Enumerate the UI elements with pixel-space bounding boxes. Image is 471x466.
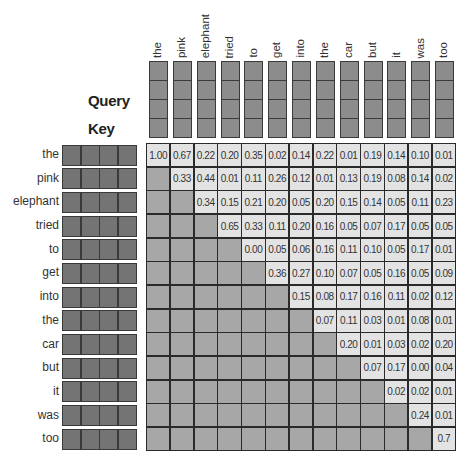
query-vector <box>221 61 240 138</box>
query-token-text: too <box>438 42 450 58</box>
attention-score-cell: 0.01 <box>433 144 455 166</box>
query-vector-cell <box>198 119 215 137</box>
masked-cell <box>195 381 217 403</box>
query-vector-cell <box>365 81 382 99</box>
key-vector-cell <box>63 335 80 354</box>
query-vector-cell <box>293 100 310 118</box>
key-vector-cell <box>100 288 117 307</box>
masked-cell <box>195 357 217 379</box>
masked-cell <box>409 428 431 450</box>
masked-cell <box>242 357 264 379</box>
masked-cell <box>266 428 288 450</box>
query-token-text: car <box>343 42 355 58</box>
attention-score-cell: 0.08 <box>409 310 431 332</box>
attention-score-cell: 0.05 <box>290 191 312 213</box>
query-vector-cell <box>245 62 262 80</box>
attention-score-cell: 0.20 <box>337 333 359 355</box>
masked-cell <box>337 381 359 403</box>
attention-score-cell: 0.01 <box>314 168 336 190</box>
key-token-label: elephant <box>13 194 59 208</box>
attention-score-cell: 0.17 <box>409 239 431 261</box>
attention-score-cell: 0.05 <box>433 215 455 237</box>
masked-cell <box>147 239 169 261</box>
query-token-label: tried <box>218 0 242 58</box>
key-vector-cell <box>63 240 80 259</box>
query-vector-cell <box>269 100 286 118</box>
query-vector-cell <box>341 81 358 99</box>
attention-score-cell: 0.07 <box>361 357 383 379</box>
key-vector-cell <box>82 264 99 283</box>
query-token-label: into <box>289 0 313 58</box>
query-vector-cell <box>436 119 453 137</box>
attention-score-cell: 0.20 <box>314 191 336 213</box>
attention-score-cell: 0.16 <box>361 286 383 308</box>
query-vector-cell <box>269 119 286 137</box>
query-vector <box>435 61 454 138</box>
key-vector <box>62 358 137 379</box>
masked-cell <box>195 239 217 261</box>
key-token-label: to <box>49 242 59 256</box>
masked-cell <box>195 286 217 308</box>
attention-score-cell: 0.02 <box>433 168 455 190</box>
attention-score-cell: 0.02 <box>409 286 431 308</box>
key-vector-cell <box>82 169 99 188</box>
masked-cell <box>147 168 169 190</box>
query-token-text: was <box>415 38 427 58</box>
attention-score-cell: 0.02 <box>266 144 288 166</box>
attention-score-cell: 0.22 <box>195 144 217 166</box>
key-vector-cell <box>100 146 117 165</box>
key-vector-cell <box>119 311 136 330</box>
attention-score-cell: 0.33 <box>242 215 264 237</box>
attention-score-cell: 0.05 <box>337 215 359 237</box>
masked-cell <box>171 310 193 332</box>
key-vector <box>62 381 137 402</box>
masked-cell <box>218 310 240 332</box>
attention-score-cell: 0.16 <box>385 262 407 284</box>
key-vector-cell <box>63 217 80 236</box>
attention-score-cell: 0.05 <box>266 239 288 261</box>
masked-cell <box>314 357 336 379</box>
query-token-label: to <box>241 0 265 58</box>
key-vector <box>62 192 137 213</box>
key-vector-cell <box>82 193 99 212</box>
query-token-label: was <box>408 0 432 58</box>
masked-cell <box>171 262 193 284</box>
query-token-text: tried <box>224 36 236 58</box>
query-token-label: pink <box>170 0 194 58</box>
key-vector-cell <box>119 288 136 307</box>
masked-cell <box>147 357 169 379</box>
key-vector-cell <box>63 264 80 283</box>
key-vector <box>62 405 137 426</box>
attention-score-cell: 0.00 <box>242 239 264 261</box>
key-vector-cell <box>100 335 117 354</box>
attention-score-cell: 0.11 <box>242 168 264 190</box>
query-vector-cell <box>412 119 429 137</box>
key-vector-cell <box>119 264 136 283</box>
key-vector-cell <box>100 217 117 236</box>
masked-cell <box>171 191 193 213</box>
attention-score-cell: 0.05 <box>385 191 407 213</box>
attention-score-cell: 0.19 <box>361 144 383 166</box>
key-token-label: pink <box>37 171 59 185</box>
masked-cell <box>147 428 169 450</box>
attention-score-cell: 0.14 <box>409 168 431 190</box>
query-token-text: to <box>248 48 260 58</box>
masked-cell <box>195 262 217 284</box>
key-vector-cell <box>119 406 136 425</box>
attention-score-cell: 0.14 <box>361 191 383 213</box>
query-token-text: the <box>152 42 164 58</box>
attention-score-cell: 0.05 <box>361 262 383 284</box>
query-vector-cell <box>388 119 405 137</box>
query-vector-cell <box>436 62 453 80</box>
attention-score-cell: 0.17 <box>385 357 407 379</box>
key-vector-cell <box>100 430 117 449</box>
query-token-text: get <box>271 42 283 58</box>
masked-cell <box>195 333 217 355</box>
key-token-label: was <box>38 408 59 422</box>
masked-cell <box>290 404 312 426</box>
query-vector <box>292 61 311 138</box>
key-vector <box>62 310 137 331</box>
attention-score-cell: 0.01 <box>337 144 359 166</box>
query-vector-cell <box>269 81 286 99</box>
masked-cell <box>385 428 407 450</box>
